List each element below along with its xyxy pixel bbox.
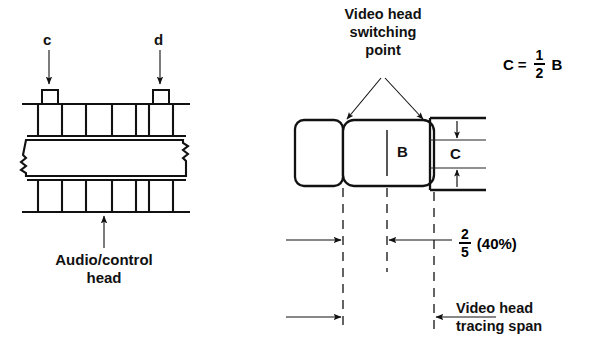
- equation-fraction: 1 2: [534, 48, 546, 80]
- tape-band: [21, 140, 188, 176]
- switching-point-label-line1: Video head: [313, 6, 453, 22]
- left-head-assembly: [21, 50, 190, 248]
- switching-point-arrow-right: [385, 78, 423, 119]
- equation-lhs: C: [503, 56, 514, 73]
- two-fifths-numerator: 2: [459, 227, 471, 241]
- switching-point-label-line2: switching: [313, 24, 453, 40]
- equation-fraction-denominator: 2: [534, 66, 546, 80]
- switching-point-arrow-left: [347, 78, 381, 119]
- fraction-annotation-two-fifths: 2 5 (40%): [456, 227, 517, 259]
- right-track-assembly: [286, 78, 496, 330]
- dimension-label-c: C: [450, 146, 461, 163]
- tracing-span-label-line1: Video head: [456, 300, 586, 316]
- pointer-label-c: c: [43, 32, 51, 49]
- upper-drum-dividers: [38, 104, 173, 136]
- equation-c-equals-half-b: C = 1 2 B: [503, 48, 562, 80]
- pointer-label-d: d: [154, 32, 163, 49]
- track-block-center: [343, 120, 434, 186]
- two-fifths-denominator: 5: [459, 245, 471, 259]
- audio-control-head-caption-line1: Audio/control: [24, 252, 184, 269]
- head-gap-box-c: [42, 90, 58, 104]
- equation-rhs: B: [551, 56, 562, 73]
- equation-fraction-numerator: 1: [534, 48, 546, 62]
- two-fifths-percent: (40%): [477, 235, 517, 252]
- figure-canvas: c d Audio/control head Video head switch…: [0, 0, 590, 353]
- lower-drum-dividers: [38, 180, 173, 212]
- dimension-label-b: B: [397, 144, 408, 161]
- head-gap-box-d: [153, 90, 169, 104]
- equation-equals-sign: =: [518, 56, 527, 73]
- track-block-left: [295, 120, 343, 186]
- two-fifths-fraction: 2 5: [459, 227, 471, 259]
- switching-point-label-line3: point: [313, 42, 453, 58]
- tracing-span-label-line2: tracing span: [456, 318, 586, 334]
- audio-control-head-caption-line2: head: [24, 270, 184, 287]
